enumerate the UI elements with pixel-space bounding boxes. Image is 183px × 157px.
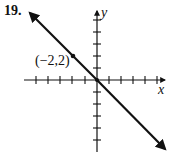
- coordinate-plane: [0, 0, 183, 157]
- graph-line-lower: [97, 80, 165, 149]
- point-label: (−2,2): [35, 53, 70, 69]
- graph-line: [30, 13, 97, 80]
- point-marker: [71, 54, 76, 59]
- y-axis-label: y: [101, 5, 107, 21]
- x-axis-label: x: [158, 82, 164, 98]
- origin-marker: [95, 78, 99, 82]
